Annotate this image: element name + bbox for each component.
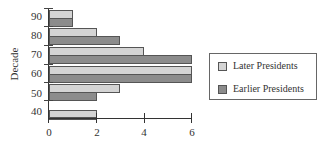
x-axis xyxy=(48,118,192,119)
x-tick-label-2: 2 xyxy=(89,126,105,138)
legend-swatch-earlier-icon xyxy=(218,85,227,94)
y-tick xyxy=(44,45,53,46)
legend-item-earlier: Earlier Presidents xyxy=(218,83,304,95)
x-tick-label-4: 4 xyxy=(136,126,152,138)
y-axis-title: Decade xyxy=(8,44,20,84)
x-tick-label-0: 0 xyxy=(41,126,57,138)
y-tick-label-60: 60 xyxy=(26,68,42,79)
y-tick xyxy=(44,26,53,27)
legend-label-later: Later Presidents xyxy=(233,60,298,71)
bar-earlier-50 xyxy=(49,92,97,101)
y-tick-label-80: 80 xyxy=(26,30,42,41)
x-tick xyxy=(191,113,192,123)
legend-swatch-later-icon xyxy=(218,62,227,71)
legend-label-earlier: Earlier Presidents xyxy=(233,83,304,94)
bar-earlier-80 xyxy=(49,36,120,45)
bar-earlier-60 xyxy=(49,74,192,83)
x-tick-label-6: 6 xyxy=(184,126,200,138)
x-tick xyxy=(48,113,49,123)
bar-earlier-70 xyxy=(49,55,192,64)
y-tick xyxy=(44,100,53,101)
x-tick xyxy=(96,113,97,123)
y-tick xyxy=(44,82,53,83)
legend-item-later: Later Presidents xyxy=(218,60,298,72)
y-tick xyxy=(44,8,53,9)
bar-chart: Decade 90 80 70 60 50 40 0 2 4 6 Later P… xyxy=(0,0,329,149)
x-tick xyxy=(144,113,145,123)
y-tick-label-50: 50 xyxy=(26,88,42,99)
y-tick xyxy=(44,64,53,65)
legend: Later Presidents Earlier Presidents xyxy=(209,53,317,100)
y-tick-label-40: 40 xyxy=(26,106,42,117)
y-tick-label-70: 70 xyxy=(26,49,42,60)
y-tick-label-90: 90 xyxy=(26,11,42,22)
